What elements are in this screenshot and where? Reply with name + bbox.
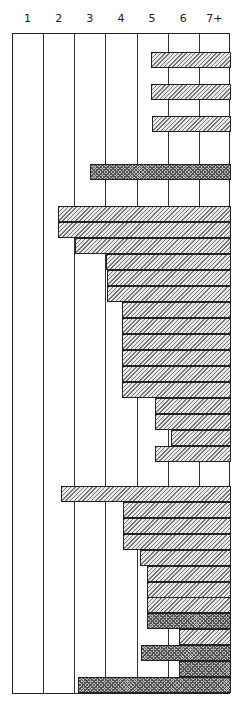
bar [179,661,231,677]
bar [61,486,231,502]
bar [155,414,231,430]
column-label: 2 [43,12,74,25]
bar [171,430,231,446]
bar [90,164,231,180]
bar [107,270,231,286]
bar [152,116,231,132]
column-label: 4 [105,12,136,25]
bar [122,334,231,350]
bar [179,629,231,645]
bar [147,597,231,613]
bar [147,582,231,598]
column-label: 7+ [199,12,230,25]
grid-line [74,33,75,694]
bar [122,382,231,398]
bar [141,645,231,661]
grid-line [43,33,44,694]
bar [123,502,231,518]
bar [140,550,231,566]
bar [122,366,231,382]
bar [122,318,231,334]
bar [106,254,231,270]
bar [147,566,231,582]
bar [122,350,231,366]
bar [58,206,231,222]
bar [122,302,231,318]
bar [58,222,231,238]
column-label: 6 [168,12,199,25]
bar [123,518,231,534]
bar [155,398,231,414]
grid-line [105,33,106,694]
bar [107,286,231,302]
bar [75,238,231,254]
bar [155,446,231,462]
bar [151,52,231,68]
bar [123,534,231,550]
bar [78,677,231,693]
bar [151,84,231,100]
column-label: 1 [12,12,43,25]
bar [147,613,231,629]
column-label: 3 [74,12,105,25]
column-label: 5 [137,12,168,25]
